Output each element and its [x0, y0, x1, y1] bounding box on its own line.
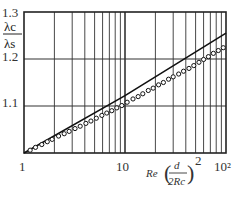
data-point-marker — [33, 145, 37, 149]
data-point-marker — [197, 60, 201, 64]
x-label-exponent: 2 — [195, 153, 202, 168]
data-point-marker — [177, 72, 181, 76]
data-point-marker — [28, 148, 32, 152]
x-label-denominator: 2Rc — [168, 175, 185, 187]
data-point-marker — [192, 63, 196, 67]
data-point-marker — [221, 46, 225, 50]
y-label-numerator: λc — [4, 19, 16, 34]
data-point-marker — [201, 57, 205, 61]
data-point-marker — [110, 109, 114, 113]
data-point-marker — [62, 132, 66, 136]
data-point-marker — [115, 106, 119, 110]
data-point-marker — [100, 113, 104, 117]
x-label-re: Re — [145, 167, 158, 179]
data-point-marker — [105, 111, 109, 115]
data-point-marker — [187, 66, 191, 70]
data-point-marker — [84, 121, 88, 125]
data-point-marker — [89, 119, 93, 123]
data-point-marker — [141, 92, 145, 96]
data-point-marker — [156, 83, 160, 87]
data-point-marker — [131, 97, 135, 101]
data-point-marker — [151, 86, 155, 90]
data-point-marker — [50, 137, 54, 141]
data-point-marker — [166, 77, 170, 81]
data-point-marker — [94, 116, 98, 120]
x-tick-10: 10 — [116, 159, 129, 174]
x-tick-1: 1 — [19, 159, 26, 174]
data-point-marker — [216, 48, 220, 52]
data-point-marker — [146, 88, 150, 92]
data-point-marker — [181, 69, 185, 73]
y-tick-1.2: 1.2 — [2, 49, 18, 64]
x-tick-100: 10² — [214, 159, 231, 174]
y-axis-label: λc λs — [3, 19, 22, 51]
x-label-numerator: d — [174, 159, 180, 171]
y-tick-1.3: 1.3 — [2, 5, 18, 20]
data-point-marker — [78, 124, 82, 128]
data-point-marker — [120, 103, 124, 107]
data-point-marker — [206, 55, 210, 59]
grid-lines — [24, 12, 226, 153]
x-axis-label: Re ( d 2Rc ) 2 — [145, 153, 202, 187]
data-point-marker — [211, 51, 215, 55]
data-point-marker — [125, 100, 129, 104]
data-point-marker — [40, 142, 44, 146]
data-point-marker — [73, 126, 77, 130]
data-point-marker — [56, 134, 60, 138]
chart: λc λs 1.3 1.2 1.1 1 10 10² Re ( d 2Rc ) … — [0, 0, 239, 201]
data-point-marker — [45, 140, 49, 144]
data-point-marker — [136, 95, 140, 99]
right-paren: ) — [187, 160, 194, 185]
data-point-marker — [171, 75, 175, 79]
data-point-marker — [67, 129, 71, 133]
y-tick-1.1: 1.1 — [2, 95, 18, 110]
data-point-marker — [161, 80, 165, 84]
